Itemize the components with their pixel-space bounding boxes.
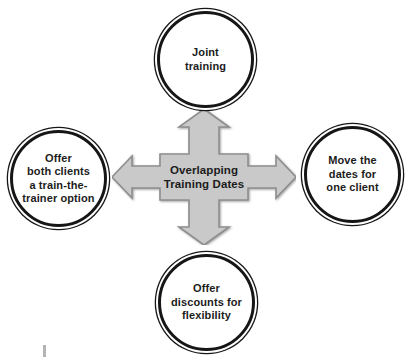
node-joint-training: Joint training (157, 11, 254, 108)
node-move-dates-label: Move the dates for one client (326, 154, 378, 194)
node-move-dates: Move the dates for one client (304, 126, 401, 223)
diagram-canvas: Overlapping Training Dates Joint trainin… (0, 0, 408, 357)
node-offer-discounts: Offer discounts for flexibility (158, 254, 255, 351)
node-offer-discounts-label: Offer discounts for flexibility (171, 282, 242, 322)
node-train-the-trainer: Offer both clients a train-the- trainer … (10, 130, 107, 227)
node-joint-training-label: Joint training (185, 46, 226, 73)
node-train-the-trainer-label: Offer both clients a train-the- trainer … (22, 152, 94, 206)
stray-mark (43, 345, 46, 357)
center-label: Overlapping Training Dates (160, 154, 248, 200)
